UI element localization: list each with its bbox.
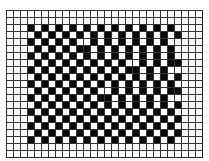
filled-cell — [104, 31, 111, 38]
empty-cell — [104, 45, 111, 52]
filled-cell — [62, 45, 69, 52]
empty-cell — [195, 73, 202, 80]
filled-cell — [55, 24, 62, 31]
empty-cell — [118, 52, 125, 59]
empty-cell — [13, 87, 20, 94]
empty-cell — [13, 52, 20, 59]
filled-cell — [34, 45, 41, 52]
filled-cell — [111, 66, 118, 73]
empty-cell — [55, 101, 62, 108]
empty-cell — [6, 94, 13, 101]
empty-cell — [69, 17, 76, 24]
empty-cell — [174, 52, 181, 59]
empty-cell — [83, 73, 90, 80]
filled-cell — [34, 73, 41, 80]
empty-cell — [195, 66, 202, 73]
filled-cell — [125, 122, 132, 129]
empty-cell — [27, 17, 34, 24]
empty-cell — [48, 38, 55, 45]
filled-cell — [104, 101, 111, 108]
empty-cell — [62, 108, 69, 115]
empty-cell — [13, 24, 20, 31]
empty-cell — [6, 31, 13, 38]
filled-cell — [41, 80, 48, 87]
empty-cell — [34, 38, 41, 45]
empty-cell — [6, 59, 13, 66]
filled-cell — [41, 66, 48, 73]
empty-cell — [13, 143, 20, 150]
empty-cell — [6, 101, 13, 108]
empty-cell — [146, 150, 153, 157]
empty-cell — [97, 143, 104, 150]
filled-cell — [153, 45, 160, 52]
filled-cell — [160, 101, 167, 108]
filled-cell — [48, 115, 55, 122]
empty-cell — [20, 150, 27, 157]
empty-cell — [181, 38, 188, 45]
empty-cell — [6, 129, 13, 136]
empty-cell — [125, 129, 132, 136]
empty-cell — [174, 150, 181, 157]
filled-cell — [55, 52, 62, 59]
filled-cell — [111, 80, 118, 87]
empty-cell — [48, 122, 55, 129]
empty-cell — [97, 10, 104, 17]
filled-cell — [104, 73, 111, 80]
filled-cell — [160, 66, 167, 73]
filled-cell — [97, 52, 104, 59]
filled-cell — [76, 87, 83, 94]
empty-cell — [48, 24, 55, 31]
filled-cell — [174, 129, 181, 136]
empty-cell — [13, 31, 20, 38]
filled-cell — [27, 66, 34, 73]
empty-cell — [20, 59, 27, 66]
filled-cell — [111, 24, 118, 31]
empty-cell — [132, 87, 139, 94]
empty-cell — [181, 136, 188, 143]
empty-cell — [118, 17, 125, 24]
empty-cell — [195, 129, 202, 136]
empty-cell — [146, 10, 153, 17]
empty-cell — [132, 136, 139, 143]
filled-cell — [139, 59, 146, 66]
empty-cell — [69, 73, 76, 80]
empty-cell — [97, 101, 104, 108]
filled-cell — [83, 136, 90, 143]
filled-cell — [69, 94, 76, 101]
empty-cell — [90, 45, 97, 52]
empty-cell — [97, 17, 104, 24]
filled-cell — [153, 87, 160, 94]
filled-cell — [132, 94, 139, 101]
filled-cell — [111, 45, 118, 52]
filled-cell — [62, 115, 69, 122]
empty-cell — [111, 129, 118, 136]
filled-cell — [125, 80, 132, 87]
empty-cell — [55, 17, 62, 24]
filled-cell — [41, 24, 48, 31]
filled-cell — [62, 101, 69, 108]
empty-cell — [125, 17, 132, 24]
filled-cell — [69, 24, 76, 31]
empty-cell — [48, 80, 55, 87]
empty-cell — [76, 150, 83, 157]
empty-cell — [125, 101, 132, 108]
empty-cell — [76, 94, 83, 101]
empty-cell — [90, 136, 97, 143]
filled-cell — [27, 94, 34, 101]
empty-cell — [13, 122, 20, 129]
filled-cell — [125, 108, 132, 115]
empty-cell — [27, 59, 34, 66]
empty-cell — [69, 45, 76, 52]
empty-cell — [181, 80, 188, 87]
filled-cell — [76, 129, 83, 136]
filled-cell — [55, 108, 62, 115]
empty-cell — [62, 66, 69, 73]
empty-cell — [6, 10, 13, 17]
empty-cell — [174, 10, 181, 17]
empty-cell — [55, 129, 62, 136]
empty-cell — [125, 59, 132, 66]
empty-cell — [104, 87, 111, 94]
empty-cell — [90, 66, 97, 73]
filled-cell — [118, 31, 125, 38]
empty-cell — [160, 122, 167, 129]
